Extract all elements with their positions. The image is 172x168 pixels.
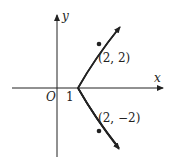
point-lower-label: (2, −2): [98, 111, 140, 125]
point-upper-label: (2, 2): [98, 51, 130, 65]
y-axis-label: y: [61, 9, 69, 23]
x-axis-label: x: [154, 71, 161, 85]
vertex-label: 1: [66, 90, 74, 104]
parabola-diagram: y x O 1 (2, 2) (2, −2): [0, 0, 172, 168]
point-upper: [97, 42, 102, 47]
point-lower: [97, 129, 102, 134]
origin-label: O: [46, 90, 56, 104]
